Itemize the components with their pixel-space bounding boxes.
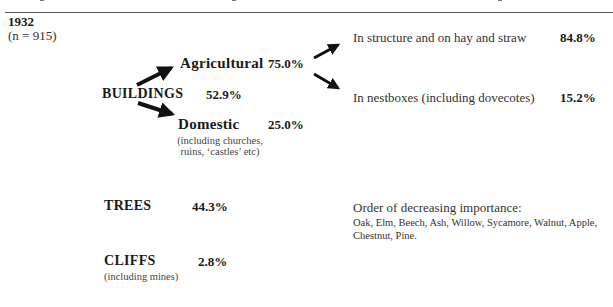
trees-percent: 44.3% xyxy=(192,199,228,215)
domestic-note: (including churches, ruins, ‘castles’ et… xyxy=(170,135,270,157)
domestic-note-line2: ruins, ‘castles’ etc) xyxy=(170,146,270,157)
domestic-percent: 25.0% xyxy=(268,117,304,133)
nestboxes-label: In nestboxes (including dovecotes) xyxy=(353,90,535,106)
structure-hay-straw-label: In structure and on hay and straw xyxy=(353,30,526,46)
cliffs-note: (including mines) xyxy=(104,271,178,282)
domestic-note-line1: (including churches, xyxy=(170,135,270,146)
buildings-percent: 52.9% xyxy=(206,87,242,103)
trees-order-heading: Order of decreasing importance: xyxy=(353,200,522,216)
cliffs-label: CLIFFS xyxy=(104,253,156,269)
buildings-label: BUILDINGS xyxy=(102,86,183,102)
nestboxes-percent: 15.2% xyxy=(560,90,596,106)
structure-hay-straw-percent: 84.8% xyxy=(560,30,596,46)
arrow-agricultural-to-nestboxes-icon xyxy=(314,74,338,88)
agricultural-label: Agricultural xyxy=(180,55,264,72)
trees-label: TREES xyxy=(104,198,151,214)
trees-order-list: Oak, Elm, Beech, Ash, Willow, Sycamore, … xyxy=(353,216,611,242)
arrow-buildings-to-domestic-icon xyxy=(138,103,172,114)
arrow-buildings-to-agricultural-icon xyxy=(137,68,171,85)
arrows xyxy=(0,0,613,307)
arrow-agricultural-to-structure-icon xyxy=(314,45,338,58)
domestic-label: Domestic xyxy=(178,116,240,133)
agricultural-percent: 75.0% xyxy=(268,56,304,72)
cliffs-percent: 2.8% xyxy=(198,254,227,270)
